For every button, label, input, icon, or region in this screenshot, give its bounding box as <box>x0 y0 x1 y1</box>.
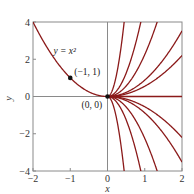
labels: −2−1012−4−2024xy(−1, 1)(0, 0)y = x² <box>3 17 185 194</box>
x-tick-label: −1 <box>65 173 76 184</box>
points <box>68 76 110 99</box>
chart: −2−1012−4−2024xy(−1, 1)(0, 0)y = x² <box>0 0 194 193</box>
solution-curve <box>33 22 108 97</box>
point-label: (−1, 1) <box>74 67 100 78</box>
x-tick-label: 2 <box>180 173 185 184</box>
y-tick-label: −2 <box>19 128 30 139</box>
point-marker <box>68 76 73 81</box>
y-tick-label: 0 <box>25 91 30 102</box>
equation-annotation: y = x² <box>52 46 76 56</box>
point-marker <box>105 94 110 99</box>
x-axis-label: x <box>104 183 110 193</box>
point-label: (0, 0) <box>82 100 103 111</box>
y-tick-label: −4 <box>19 166 30 177</box>
y-tick-label: 4 <box>25 17 30 28</box>
y-axis-label: y <box>3 96 14 102</box>
y-tick-label: 2 <box>25 54 30 65</box>
x-tick-label: 1 <box>142 173 147 184</box>
